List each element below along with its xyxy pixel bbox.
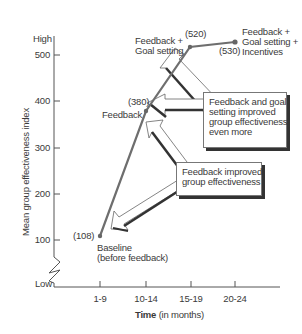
y-bottom-label: Low <box>35 279 52 289</box>
value-label: (380) <box>128 97 149 107</box>
x-tick-label: 1-9 <box>80 294 120 304</box>
callout-goal-setting: Feedback and goal setting improved group… <box>203 92 287 148</box>
value-label: (530) <box>219 46 240 56</box>
chart: High 500 400 300 200 100 Low Mean group … <box>0 0 302 334</box>
y-tick-label: 100 <box>20 235 50 245</box>
y-tick-label: 400 <box>20 96 50 106</box>
point-label: Baseline (before feedback) <box>97 243 168 263</box>
y-top-label: High <box>33 34 52 44</box>
data-point <box>144 109 148 113</box>
x-tick-label: 15-19 <box>171 294 211 304</box>
x-tick-label: 20-24 <box>215 294 255 304</box>
point-label: Feedback + Goal setting <box>135 36 183 56</box>
x-axis-title: Time (in months) <box>135 310 204 320</box>
data-point <box>232 39 237 44</box>
value-label: (108) <box>73 231 94 241</box>
value-label: (520) <box>185 29 206 39</box>
data-point <box>188 45 192 49</box>
point-label: Feedback + Goal setting + Incentives <box>242 27 298 57</box>
data-point <box>98 234 102 238</box>
y-axis-title: Mean group effectiveness index <box>20 108 31 236</box>
x-tick-label: 10-14 <box>126 294 166 304</box>
callout-feedback: Feedback improved group effectiveness <box>176 162 262 196</box>
x-axis <box>54 281 280 287</box>
point-label: Feedback <box>102 110 142 120</box>
y-tick-label: 500 <box>20 50 50 60</box>
y-axis <box>49 36 60 287</box>
